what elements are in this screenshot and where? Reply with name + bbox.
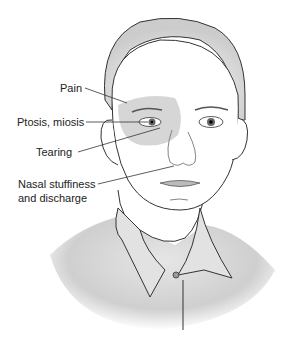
label-ptosis-miosis: Ptosis, miosis [17, 116, 84, 129]
label-tearing: Tearing [36, 146, 72, 159]
label-and-discharge: and discharge [18, 192, 87, 205]
label-nasal-stuffiness: Nasal stuffiness [18, 178, 95, 191]
label-pain: Pain [60, 82, 82, 95]
symptom-diagram: Pain Ptosis, miosis Tearing Nasal stuffi… [0, 0, 289, 338]
shirt-button [173, 272, 179, 278]
face-illustration [0, 0, 289, 338]
